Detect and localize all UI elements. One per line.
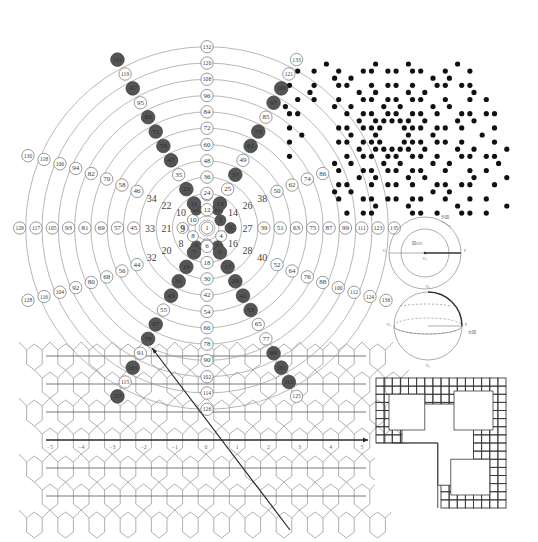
- diagram-label: 外圆: [441, 214, 449, 220]
- fractal-cell: [474, 451, 482, 459]
- number-text: 32: [147, 252, 157, 263]
- prime-dot: [394, 168, 399, 173]
- prime-dot: [459, 211, 464, 216]
- fractal-cell: [376, 378, 384, 386]
- axis-tick-label: −1: [172, 444, 178, 450]
- number-text: 47: [168, 156, 176, 164]
- prime-dot: [471, 175, 476, 180]
- number-text: 37: [232, 171, 240, 179]
- fractal-cell: [449, 378, 457, 386]
- number-marker: 66: [201, 322, 213, 334]
- number-text: 49: [239, 156, 247, 164]
- number-text: 96: [204, 92, 212, 100]
- prime-dot: [373, 175, 378, 180]
- fractal-cell: [498, 411, 506, 419]
- tile-edge: [144, 510, 175, 538]
- fractal-cell: [376, 386, 384, 394]
- number-text: 124: [366, 294, 375, 300]
- prime-dot: [394, 69, 399, 74]
- prime-dot: [287, 154, 292, 159]
- prime-number-marker: 97: [267, 96, 281, 110]
- number-text: 43: [168, 292, 176, 300]
- number-text: 64: [289, 267, 297, 275]
- tile-edge: [362, 342, 393, 370]
- number-marker: 51: [274, 222, 286, 234]
- number-text: 16: [228, 238, 238, 249]
- number-text: 10: [189, 216, 197, 224]
- prime-dot: [459, 154, 464, 159]
- fractal-cell: [474, 500, 482, 508]
- prime-dot: [447, 189, 452, 194]
- number-marker: 45: [128, 222, 140, 234]
- prime-dot: [484, 111, 489, 116]
- prime-dot: [406, 203, 411, 208]
- prime-number-marker: 47: [164, 154, 178, 168]
- prime-dot: [377, 125, 382, 130]
- number-text: 117: [32, 225, 40, 231]
- prime-dot: [492, 154, 497, 159]
- prime-dot: [357, 118, 362, 123]
- prime-number-marker: 23: [180, 182, 194, 196]
- number-text: 61: [247, 142, 255, 150]
- number-text: 100: [334, 285, 343, 291]
- number-text: 80: [88, 278, 96, 286]
- prime-dot: [435, 211, 440, 216]
- number-marker: 75: [307, 222, 319, 234]
- number-text: 35: [175, 171, 183, 179]
- prime-dot: [369, 196, 374, 201]
- prime-dot: [484, 154, 489, 159]
- number-text: 24: [204, 189, 212, 197]
- prime-dot: [336, 83, 341, 88]
- prime-dot: [344, 154, 349, 159]
- number-text: 121: [285, 71, 294, 77]
- number-marker: 121: [283, 68, 295, 80]
- tile-edge: [237, 510, 268, 538]
- tile-edge: [206, 510, 237, 538]
- great-circle-arc: [428, 292, 462, 326]
- fractal-cell: [498, 492, 506, 500]
- number-marker: 114: [201, 387, 213, 399]
- number-text: 10: [176, 207, 186, 218]
- number-marker: 4: [216, 231, 227, 242]
- prime-dot: [312, 83, 317, 88]
- number-text: 54: [204, 308, 212, 316]
- prime-dot: [406, 61, 411, 66]
- number-text: 90: [204, 356, 212, 364]
- spiral-number-labels: 1234567891011121312243648607284961081201…: [14, 41, 401, 416]
- number-marker: 76: [301, 271, 313, 283]
- number-marker: 24: [201, 187, 213, 199]
- prime-dot: [459, 111, 464, 116]
- fractal-cell: [376, 411, 384, 419]
- number-text: 20: [162, 245, 172, 256]
- number-marker: 54: [201, 305, 213, 317]
- fractal-cell: [498, 427, 506, 435]
- leader-line: [441, 221, 451, 227]
- fractal-cell: [490, 467, 498, 475]
- number-marker: 56: [116, 265, 128, 277]
- prime-dot: [422, 175, 427, 180]
- prime-dot: [435, 182, 440, 187]
- number-text: 103: [129, 365, 138, 371]
- prime-dot: [348, 76, 353, 81]
- number-text: 23: [183, 185, 191, 193]
- number-text: 29: [232, 277, 240, 285]
- number-marker: 118: [38, 153, 50, 165]
- number-marker: 39: [258, 222, 270, 234]
- prime-dot: [361, 196, 366, 201]
- prime-dot: [492, 111, 497, 116]
- number-marker: 123: [372, 222, 384, 234]
- prime-dot: [418, 140, 423, 145]
- number-text: 70: [103, 175, 111, 183]
- prime-dot: [369, 140, 374, 145]
- prime-dot: [336, 125, 341, 130]
- prime-dot: [496, 161, 501, 166]
- prime-dot: [422, 90, 427, 95]
- number-text: 48: [204, 157, 212, 165]
- prime-dot: [336, 97, 341, 102]
- number-text: 102: [203, 374, 212, 380]
- prime-dot: [459, 125, 464, 130]
- fractal-cell: [392, 435, 400, 443]
- number-text: 104: [56, 289, 65, 295]
- prime-dot: [430, 76, 435, 81]
- prime-dot: [418, 211, 423, 216]
